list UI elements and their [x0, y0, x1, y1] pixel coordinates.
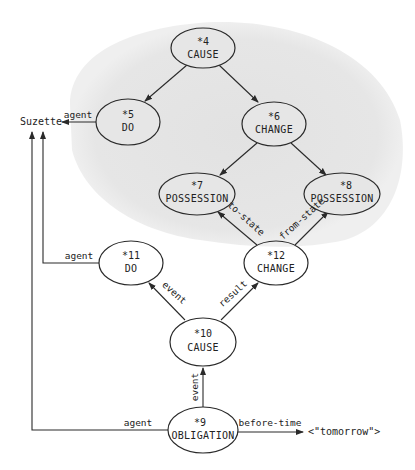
edge-label-agent: agent [124, 417, 153, 428]
node-12-change: *12 CHANGE [244, 241, 308, 285]
node-id: *7 [191, 180, 203, 191]
node-id: *12 [267, 250, 285, 261]
edge-label-event: event [160, 279, 189, 306]
node-id: *5 [122, 109, 134, 120]
node-id: *6 [268, 111, 280, 122]
node-id: *11 [122, 250, 140, 261]
node-7-possession: *7 POSSESSION [159, 173, 235, 215]
node-id: *9 [194, 417, 206, 428]
edge-label-before-time: before-time [239, 417, 302, 428]
node-type: CAUSE [187, 342, 219, 353]
node-type: CHANGE [257, 263, 295, 274]
node-id: *8 [340, 180, 352, 191]
node-id: *4 [197, 36, 209, 47]
entity-tomorrow: <"tomorrow"> [308, 426, 380, 437]
node-type: DO [122, 122, 135, 133]
node-6-change: *6 CHANGE [242, 102, 306, 146]
node-9-obligation: *9 OBLIGATION [168, 407, 238, 453]
edge-label-agent: agent [64, 109, 93, 120]
node-11-do: *11 DO [99, 241, 163, 285]
node-4-cause: *4 CAUSE [171, 28, 235, 68]
edge-label-result: result [216, 278, 249, 309]
node-type: CAUSE [187, 49, 219, 60]
node-type: POSSESSION [165, 193, 228, 204]
entity-suzette: Suzette [20, 116, 62, 127]
node-type: DO [125, 263, 138, 274]
node-10-cause: *10 CAUSE [170, 318, 236, 366]
edge-label-event: event [189, 373, 200, 402]
node-type: CHANGE [255, 124, 293, 135]
conceptual-dependency-diagram: *4 CAUSE *5 DO *6 CHANGE *7 POSSESSION *… [0, 0, 415, 470]
node-5-do: *5 DO [96, 99, 160, 145]
node-type: OBLIGATION [171, 430, 234, 441]
node-id: *10 [194, 328, 212, 339]
edge-label-agent: agent [65, 250, 94, 261]
